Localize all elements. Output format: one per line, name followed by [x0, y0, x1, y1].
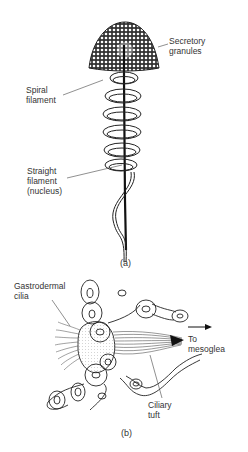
caption-b: (b) [121, 428, 132, 438]
label-straight-filament: Straight filament (nucleus) [27, 166, 62, 196]
label-spiral-filament: Spiral filament [26, 85, 56, 105]
diagram-canvas [0, 0, 248, 452]
label-secretory-granules: Secretory granules [169, 36, 205, 56]
label-gastrodermal-cilia: Gastrodermal cilia [14, 281, 66, 301]
straight-filament [124, 45, 126, 250]
label-ciliary-tuft: Ciliary tuft [148, 400, 172, 420]
gastrodermal-cilia [55, 322, 80, 370]
label-to-mesoglea: To mesoglea [188, 334, 225, 354]
neighbor-cells [47, 280, 202, 410]
spiral-filament [103, 72, 141, 171]
caption-a: (a) [120, 258, 131, 268]
figure-a-drawing [63, 22, 168, 262]
